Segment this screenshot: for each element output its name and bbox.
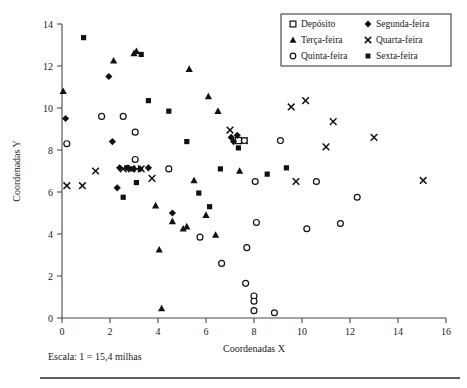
data-point <box>105 73 112 80</box>
data-point <box>202 211 209 218</box>
data-point <box>243 280 249 286</box>
data-point <box>109 138 116 145</box>
data-point <box>183 223 190 230</box>
legend-label: Sexta-feira <box>376 51 418 61</box>
data-point <box>253 219 259 225</box>
data-point <box>284 165 289 170</box>
y-tick-label: 4 <box>48 229 53 240</box>
y-tick-label: 6 <box>48 187 53 198</box>
open-square-icon <box>290 21 296 27</box>
data-point <box>130 166 135 171</box>
data-point <box>136 165 143 172</box>
data-point <box>145 164 152 171</box>
x-tick-label: 8 <box>252 326 257 337</box>
y-axis-title: Coordenadas Y <box>11 140 22 202</box>
data-point <box>110 57 117 64</box>
data-point <box>251 308 257 314</box>
x-tick-label: 6 <box>204 326 209 337</box>
y-tick-label: 14 <box>43 19 53 30</box>
x-tick-label: 16 <box>441 326 451 337</box>
data-point <box>152 202 159 209</box>
data-point <box>212 231 219 238</box>
data-point <box>236 145 241 150</box>
y-tick-label: 0 <box>48 313 53 324</box>
data-point <box>337 221 343 227</box>
data-point <box>277 138 283 144</box>
data-point <box>207 204 212 209</box>
data-point <box>166 109 171 114</box>
data-point <box>134 180 139 185</box>
data-point <box>121 195 126 200</box>
open-circle-icon <box>290 53 296 59</box>
legend-label: Depósito <box>301 19 336 29</box>
data-point <box>196 190 201 195</box>
data-point <box>169 209 176 216</box>
data-point <box>252 179 258 185</box>
coordinates-scatter-chart: 024681012141602468101214Coordenadas XCoo… <box>0 0 467 388</box>
series-segunda-feira <box>62 73 241 217</box>
data-point <box>197 234 203 240</box>
data-point <box>146 98 151 103</box>
data-point <box>190 177 197 184</box>
data-point <box>218 166 223 171</box>
data-point <box>62 115 69 122</box>
data-point <box>235 137 241 143</box>
x-tick-label: 14 <box>393 326 403 337</box>
data-point <box>99 113 105 119</box>
y-tick-label: 2 <box>48 271 53 282</box>
legend-label: Segunda-feira <box>376 19 430 29</box>
data-point <box>241 138 247 144</box>
filled-square-icon <box>366 54 371 59</box>
x-tick-label: 12 <box>345 326 355 337</box>
data-point <box>166 166 172 172</box>
x-tick-label: 0 <box>60 326 65 337</box>
series-quinta-feira <box>64 113 360 315</box>
chart-legend: DepósitoSegunda-feiraTerça-feiraQuarta-f… <box>281 14 451 66</box>
x-axis-title: Coordenadas X <box>223 343 286 354</box>
data-points-group <box>60 35 427 316</box>
data-point <box>60 87 67 94</box>
scale-caption: Escala: 1 = 15,4 milhas <box>48 351 142 362</box>
legend-label: Terça-feira <box>301 35 343 45</box>
data-point <box>244 245 250 251</box>
data-point <box>236 167 243 174</box>
y-tick-label: 12 <box>43 61 53 72</box>
data-point <box>158 305 165 312</box>
data-point <box>114 184 121 191</box>
data-point <box>132 156 138 162</box>
data-point <box>124 165 129 170</box>
data-point <box>219 260 225 266</box>
data-point <box>214 107 221 114</box>
data-point <box>81 35 86 40</box>
x-tick-label: 2 <box>108 326 113 337</box>
y-tick-label: 10 <box>43 103 53 114</box>
data-point <box>64 141 70 147</box>
data-point <box>139 52 144 57</box>
legend-label: Quarta-feira <box>376 35 423 45</box>
figure-caption: Escala: 1 = 15,4 milhas <box>48 351 142 362</box>
data-point <box>120 113 126 119</box>
data-point <box>313 179 319 185</box>
data-point <box>205 93 212 100</box>
data-point <box>251 298 257 304</box>
x-tick-label: 4 <box>156 326 161 337</box>
series-dep-sito <box>235 137 241 143</box>
data-point <box>156 246 163 253</box>
data-point <box>354 194 360 200</box>
data-point <box>304 226 310 232</box>
data-point <box>132 129 138 135</box>
x-tick-label: 10 <box>297 326 307 337</box>
data-point <box>184 139 189 144</box>
data-point <box>265 172 270 177</box>
axes-group: 024681012141602468101214Coordenadas XCoo… <box>11 19 451 355</box>
data-point <box>169 218 176 225</box>
legend-label: Quinta-feira <box>301 51 348 61</box>
y-tick-label: 8 <box>48 145 53 156</box>
data-point <box>186 65 193 72</box>
data-point <box>271 310 277 316</box>
scatter-plot-figure: 024681012141602468101214Coordenadas XCoo… <box>0 0 467 388</box>
